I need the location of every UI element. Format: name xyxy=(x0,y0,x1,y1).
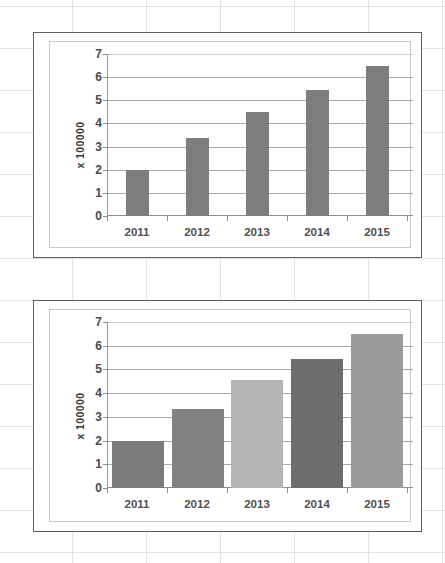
x-tick-mark xyxy=(347,488,348,493)
chart-plot-border-top: x 100000 0123456720112012201320142015 xyxy=(49,41,411,248)
y-tick-label: 0 xyxy=(80,209,102,223)
x-axis-category-labels-top: 20112012201320142015 xyxy=(107,226,407,238)
y-tick-label: 1 xyxy=(80,186,102,200)
x-tick-mark xyxy=(107,488,108,493)
bar-2011[interactable] xyxy=(126,170,149,216)
bar-slot xyxy=(347,322,407,488)
bar-slot xyxy=(228,322,288,488)
x-tick-mark xyxy=(107,216,108,221)
bar-2015[interactable] xyxy=(351,334,403,488)
x-tick-label-2013: 2013 xyxy=(227,226,287,238)
bar-slot xyxy=(108,322,168,488)
y-tick-label: 3 xyxy=(80,410,102,424)
y-tick-label: 6 xyxy=(80,70,102,84)
plot-area-top xyxy=(107,54,407,216)
x-tick-mark xyxy=(287,488,288,493)
chart-bottom[interactable]: x 100000 0123456720112012201320142015 xyxy=(50,310,410,521)
x-tick-label-2014: 2014 xyxy=(287,226,347,238)
x-tick-label-2015: 2015 xyxy=(347,498,407,510)
y-tick-label: 7 xyxy=(80,315,102,329)
plot-area-bottom xyxy=(107,322,407,488)
y-tick-label: 6 xyxy=(80,339,102,353)
y-tick-label: 4 xyxy=(80,116,102,130)
x-tick-mark xyxy=(167,488,168,493)
y-tick-label: 5 xyxy=(80,93,102,107)
x-tick-mark xyxy=(227,488,228,493)
y-tick-label: 5 xyxy=(80,362,102,376)
x-tick-label-2014: 2014 xyxy=(287,498,347,510)
bar-2014[interactable] xyxy=(306,90,329,216)
y-axis-tick-labels-bottom: 01234567 xyxy=(80,310,102,521)
chart-top[interactable]: x 100000 0123456720112012201320142015 xyxy=(50,42,410,247)
x-tick-label-2015: 2015 xyxy=(347,226,407,238)
bar-slot xyxy=(347,54,407,216)
y-tick-label: 7 xyxy=(80,47,102,61)
bar-slot xyxy=(168,54,228,216)
x-tick-label-2012: 2012 xyxy=(167,226,227,238)
x-tick-label-2013: 2013 xyxy=(227,498,287,510)
x-tick-label-2011: 2011 xyxy=(107,498,167,510)
bar-slot xyxy=(228,54,288,216)
chart-panel-top[interactable]: x 100000 0123456720112012201320142015 xyxy=(33,32,422,258)
x-tick-mark xyxy=(167,216,168,221)
x-tick-label-2011: 2011 xyxy=(107,226,167,238)
y-tick-label: 0 xyxy=(80,481,102,495)
x-tick-label-2012: 2012 xyxy=(167,498,227,510)
chart-plot-border-bottom: x 100000 0123456720112012201320142015 xyxy=(49,309,411,522)
y-tick-label: 4 xyxy=(80,386,102,400)
y-axis-tick-labels-top: 01234567 xyxy=(80,42,102,247)
y-tick-label: 1 xyxy=(80,457,102,471)
x-tick-mark xyxy=(407,216,408,221)
x-tick-mark xyxy=(287,216,288,221)
bar-2013[interactable] xyxy=(231,380,283,488)
bar-2013[interactable] xyxy=(246,112,269,216)
x-tick-mark xyxy=(227,216,228,221)
bar-2014[interactable] xyxy=(291,359,343,488)
bar-2012[interactable] xyxy=(186,138,209,216)
x-tick-mark xyxy=(347,216,348,221)
bar-2011[interactable] xyxy=(112,441,164,488)
chart-panel-bottom[interactable]: x 100000 0123456720112012201320142015 xyxy=(33,300,422,532)
bar-2012[interactable] xyxy=(172,409,224,488)
bar-slot xyxy=(287,322,347,488)
x-tick-mark xyxy=(407,488,408,493)
bar-group-bottom xyxy=(108,322,407,488)
bar-group-top xyxy=(108,54,407,216)
x-axis-category-labels-bottom: 20112012201320142015 xyxy=(107,498,407,510)
bar-slot xyxy=(168,322,228,488)
y-tick-label: 2 xyxy=(80,163,102,177)
bar-slot xyxy=(287,54,347,216)
y-tick-label: 2 xyxy=(80,434,102,448)
bar-2015[interactable] xyxy=(366,66,389,216)
y-tick-label: 3 xyxy=(80,140,102,154)
bar-slot xyxy=(108,54,168,216)
